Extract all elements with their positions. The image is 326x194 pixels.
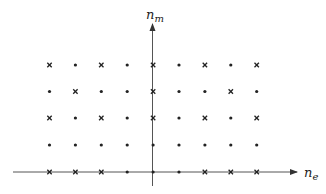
dot-marker: [100, 143, 103, 146]
dot-marker: [203, 143, 206, 146]
cross-marker: [203, 116, 207, 120]
dot-marker: [152, 170, 155, 173]
dot-marker: [126, 143, 129, 146]
cross-marker: [73, 89, 77, 93]
cross-marker: [151, 89, 155, 93]
dot-marker: [229, 116, 232, 119]
dot-marker: [255, 90, 258, 93]
dot-marker: [126, 170, 129, 173]
lattice-markers: [47, 63, 259, 174]
cross-marker: [99, 116, 103, 120]
cross-marker: [47, 116, 51, 120]
x-axis-label: ne: [304, 165, 318, 182]
dot-marker: [177, 170, 180, 173]
dot-marker: [126, 90, 129, 93]
dot-marker: [177, 143, 180, 146]
dot-marker: [229, 63, 232, 66]
cross-marker: [151, 63, 155, 67]
cross-marker: [47, 63, 51, 67]
cross-marker: [99, 63, 103, 67]
cross-marker: [255, 63, 259, 67]
dot-marker: [255, 143, 258, 146]
cross-marker: [203, 63, 207, 67]
dot-marker: [74, 63, 77, 66]
dot-marker: [177, 63, 180, 66]
dot-marker: [74, 143, 77, 146]
dot-marker: [177, 116, 180, 119]
dot-marker: [126, 63, 129, 66]
lattice-plot: nm ne: [0, 0, 326, 194]
dot-marker: [152, 143, 155, 146]
dot-marker: [74, 116, 77, 119]
dot-marker: [48, 90, 51, 93]
cross-marker: [229, 89, 233, 93]
dot-marker: [229, 143, 232, 146]
cross-marker: [151, 116, 155, 120]
y-axis-label: nm: [146, 7, 164, 24]
dot-marker: [126, 116, 129, 119]
cross-marker: [255, 116, 259, 120]
dot-marker: [48, 143, 51, 146]
dot-marker: [203, 90, 206, 93]
lattice-diagram: nm ne: [0, 0, 326, 194]
dot-marker: [100, 90, 103, 93]
dot-marker: [177, 90, 180, 93]
